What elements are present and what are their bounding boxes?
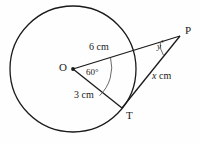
geometry-figure-container: O T P 6 cm 3 cm x cm 60° y°	[0, 0, 200, 145]
vertex-label-o: O	[59, 62, 67, 73]
measure-label-x-variable: x	[152, 70, 156, 81]
vertex-label-t: T	[126, 110, 133, 121]
line-t-to-p-tangent	[122, 36, 180, 108]
measure-label-3cm: 3 cm	[74, 90, 94, 100]
degree-symbol-icon: °	[161, 39, 164, 47]
measure-label-x-cm: x cm	[152, 71, 171, 81]
angle-arc-at-o	[100, 58, 112, 96]
measure-label-6cm: 6 cm	[89, 42, 109, 52]
measure-label-x-unit: cm	[159, 70, 171, 81]
angle-label-y-degrees: y°	[157, 40, 164, 51]
vertex-dot-o	[71, 67, 75, 71]
angle-label-60-degrees: 60°	[86, 68, 99, 77]
vertex-label-p: P	[185, 25, 191, 36]
